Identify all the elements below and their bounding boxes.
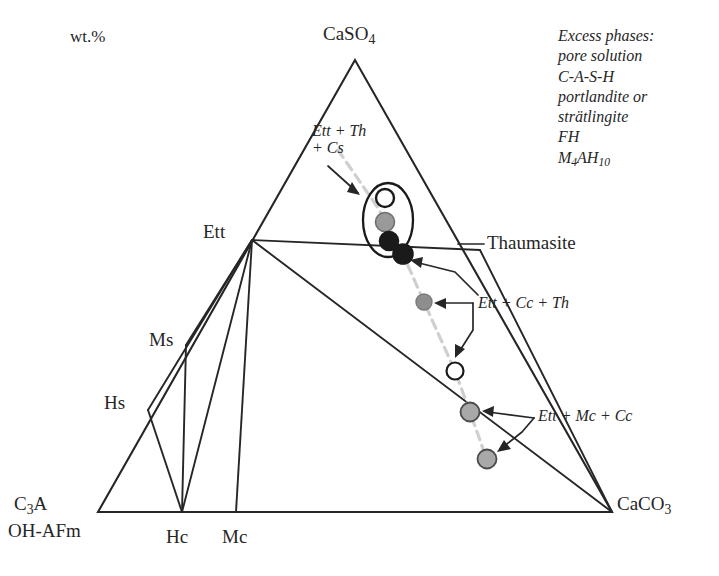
phase-label-mc: Mc: [222, 527, 247, 547]
units-label: wt.%: [70, 28, 105, 46]
annotation-ett-cc-th: Ett + Cc + Th: [478, 295, 569, 312]
annotation-ett-th-cs-line2: + Cs: [312, 139, 344, 156]
data-marker-gray-2: [416, 294, 432, 310]
tie-line-ett-hc: [182, 240, 252, 512]
excess-phases-item-5-base1: M: [558, 149, 571, 166]
tie-line-ett-thaumasite: [252, 240, 480, 250]
tie-line-ett-ms: [186, 240, 252, 345]
tie-line-ett-mc: [236, 240, 252, 512]
phase-label-hc: Hc: [166, 527, 188, 547]
arrow-ett-cc-th-upper: [410, 257, 478, 295]
tie-line-ett-caco3: [252, 240, 612, 512]
data-marker-open-2: [447, 363, 464, 380]
vertex-label-c3a-base: C: [14, 493, 27, 514]
vertex-label-caso4: CaSO4: [323, 24, 375, 47]
data-marker-gray-1: [376, 213, 395, 232]
phase-label-ms: Ms: [149, 330, 173, 350]
phase-label-hs: Hs: [104, 393, 125, 413]
arrow-ett-th-cs: [328, 166, 360, 195]
excess-phases-heading: Excess phases:: [558, 28, 654, 45]
data-marker-open-1: [376, 189, 394, 207]
excess-phases-item-0: pore solution: [558, 48, 654, 65]
excess-phases-item-5-base2: AH: [577, 149, 598, 166]
excess-phases-item-3: strätlingite: [558, 109, 654, 126]
vertex-label-c3a-tail: A: [34, 493, 48, 514]
data-marker-gray-3: [461, 403, 480, 422]
excess-phases-item-4: FH: [558, 129, 654, 146]
annotation-ett-th-cs: Ett + Th+ Cs: [312, 123, 366, 157]
phase-label-thaumasite: Thaumasite: [487, 233, 576, 253]
data-marker-black-2: [393, 244, 413, 264]
arrow-ett-cc-th-middle: [434, 298, 473, 309]
excess-phases-item-5: M4AH10: [558, 150, 654, 168]
vertex-label-c3a: C3A: [14, 494, 47, 517]
phase-label-ett: Ett: [203, 222, 225, 242]
vertex-label-caco3-base: CaCO: [617, 493, 665, 514]
excess-phases-item-5-sub2: 10: [598, 156, 610, 168]
excess-phases-item-2: portlandite or: [558, 89, 654, 106]
excess-phases-item-1: C-A-S-H: [558, 69, 654, 86]
vertex-label-caso4-sub: 4: [368, 32, 375, 47]
annotation-ett-th-cs-line1: Ett + Th: [312, 122, 366, 139]
arrow-ett-mc-cc-upper: [482, 406, 534, 418]
tie-line-thaumasite-caco3: [480, 250, 612, 512]
vertex-label-caco3-sub: 3: [665, 502, 672, 517]
annotation-ett-mc-cc: Ett + Mc + Cc: [538, 408, 632, 425]
ternary-phase-diagram: wt.% CaSO4 Ett Ms Hs C3A OH-AFm Hc Mc Ca…: [0, 0, 719, 576]
data-marker-gray-4: [478, 450, 497, 469]
tie-line-hs-hc: [148, 410, 182, 512]
vertex-label-caso4-base: CaSO: [323, 23, 368, 44]
tie-line-ms-hc: [182, 345, 186, 512]
excess-phases-block: Excess phases: pore solution C-A-S-H por…: [558, 28, 654, 172]
vertex-label-c3a-sub: 3: [27, 502, 34, 517]
arrow-ett-mc-cc-lower: [497, 418, 534, 452]
arrow-ett-cc-th-lower: [455, 303, 473, 358]
vertex-label-oh-afm: OH-AFm: [8, 521, 81, 541]
vertex-label-caco3: CaCO3: [617, 494, 671, 517]
tie-lines: [148, 240, 612, 512]
